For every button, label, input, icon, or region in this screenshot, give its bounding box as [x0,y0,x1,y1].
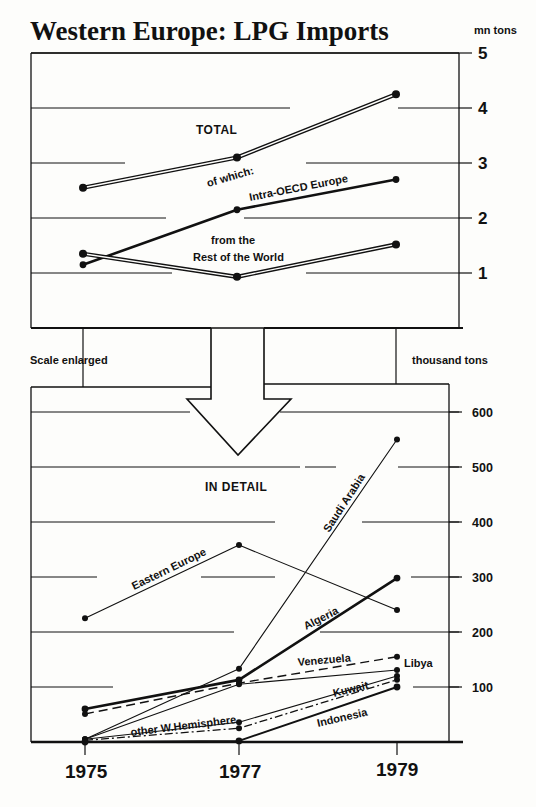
in-detail-panel-label: IN DETAIL [205,480,267,494]
data-point [392,240,400,248]
data-point [393,176,400,183]
data-point [233,273,241,281]
total-panel-label: TOTAL [196,123,237,137]
libya-label: Libya [404,657,434,669]
top-y-axis-ticks: 12345 [478,44,488,283]
data-point [236,542,242,548]
data-point [79,184,87,192]
chart-title: Western Europe: LPG Imports [30,16,389,46]
data-point [394,684,401,691]
x-label-1975: 1975 [65,761,108,782]
y-tick-2: 2 [478,209,487,228]
y-tick-4: 4 [478,99,488,118]
scale-enlarged-arrow [187,328,291,455]
bottom-gridlines [31,412,462,687]
y-tick-1: 1 [478,264,487,283]
rest-of-world-label-1: from the [211,234,255,246]
indonesia-label: Indonesia [316,706,370,729]
data-point [394,575,401,582]
data-point [82,615,88,621]
data-point [234,206,241,213]
y-tick-3: 3 [478,154,487,173]
bottom-y-axis-ticks: 100200300400500600 [472,406,493,695]
y-tick-200: 200 [472,626,493,640]
of-which-label: of which: [205,164,255,189]
data-point [236,719,242,725]
top-unit-label: mn tons [474,24,517,36]
x-label-1979: 1979 [376,759,418,780]
data-point [236,666,242,672]
y-tick-5: 5 [478,44,487,63]
scale-enlarged-label: Scale enlarged [30,354,108,366]
y-tick-600: 600 [472,406,493,420]
data-point [394,667,400,673]
data-point [82,711,88,717]
data-point [236,738,243,745]
saudi-arabia-label: Saudi Arabia [321,471,368,534]
venezuela-label: Venezuela [297,651,352,668]
data-point [236,725,242,731]
eastern-europe-label: Eastern Europe [130,545,208,591]
y-tick-100: 100 [472,681,493,695]
y-tick-500: 500 [472,461,493,475]
data-point [394,437,400,443]
data-point [79,250,87,258]
lpg-imports-chart: Western Europe: LPG Imports mn tons 1234… [0,0,536,807]
data-point [236,681,242,687]
data-point [233,154,241,162]
y-tick-400: 400 [472,516,493,530]
data-point [394,654,400,660]
bottom-unit-label: thousand tons [412,354,488,366]
data-point [392,90,400,98]
data-point [82,739,89,746]
y-tick-300: 300 [472,571,493,585]
x-label-1977: 1977 [219,761,261,782]
kuwait-label: Kuwait [332,678,370,698]
other-w-hemisphere-label: other W.Hemisphere [130,713,237,738]
data-point [394,607,400,613]
data-point [394,677,400,683]
data-point [80,261,87,268]
rest-of-world-label-2: Rest of the World [193,251,284,263]
